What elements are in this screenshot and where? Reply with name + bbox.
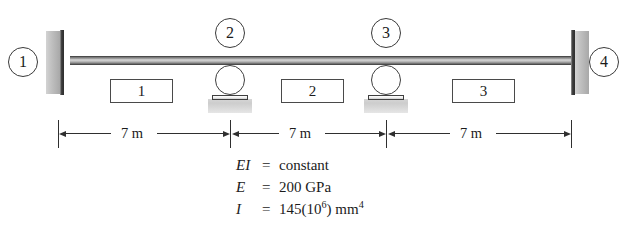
fixed-support-hatch-right xyxy=(575,31,589,94)
member-label-1: 1 xyxy=(138,84,146,99)
dimension-line-2a xyxy=(239,133,279,134)
dimension-label-2: 7 m xyxy=(275,126,325,141)
dimension-arrowhead-right-3 xyxy=(564,131,571,137)
material-properties-note: EI = constant E = 200 GPa I = 145(106) m… xyxy=(236,158,364,224)
roller-base-plate-2 xyxy=(212,95,248,100)
member-box-2: 2 xyxy=(281,79,344,103)
fixed-support-face-left xyxy=(60,30,64,95)
property-value-e: 200 GPa xyxy=(279,180,331,195)
dimension-label-3: 7 m xyxy=(446,126,496,141)
property-symbol-i: I xyxy=(236,202,262,217)
dimension-line-2b xyxy=(325,133,379,134)
node-marker-4: 4 xyxy=(589,47,619,77)
property-row-e: E = 200 GPa xyxy=(236,180,364,202)
property-row-ei: EI = constant xyxy=(236,158,364,180)
roller-ground-block-2 xyxy=(208,99,252,113)
member-box-3: 3 xyxy=(452,79,515,103)
roller-ground-block-3 xyxy=(364,99,408,113)
property-value-i: 145(106) mm4 xyxy=(279,202,364,217)
dimension-arrowhead-right-1 xyxy=(223,131,230,137)
dimension-tick-3 xyxy=(571,120,572,148)
node-marker-2: 2 xyxy=(215,18,245,48)
roller-base-plate-3 xyxy=(368,95,404,100)
dimension-line-3a xyxy=(395,133,450,134)
property-symbol-e: E xyxy=(236,180,262,195)
dimension-arrowhead-left-1 xyxy=(59,131,66,137)
dimension-line-1b xyxy=(157,133,223,134)
property-value-ei: constant xyxy=(279,158,329,173)
fixed-support-face-right xyxy=(571,30,575,95)
dimension-line-1a xyxy=(66,133,111,134)
beam-diagram-figure: 1 2 3 4 1 2 3 7 m 7 m 7 m EI = xyxy=(0,0,625,251)
dimension-arrowhead-left-3 xyxy=(388,131,395,137)
dimension-label-1: 7 m xyxy=(107,126,157,141)
node-label-2: 2 xyxy=(226,25,234,41)
roller-support-2 xyxy=(215,65,245,95)
property-equals-i: = xyxy=(262,202,279,217)
dimension-arrowhead-left-2 xyxy=(232,131,239,137)
node-label-4: 4 xyxy=(600,54,608,70)
property-symbol-ei: EI xyxy=(236,158,262,173)
member-label-3: 3 xyxy=(480,84,488,99)
member-label-2: 2 xyxy=(309,84,317,99)
node-marker-3: 3 xyxy=(371,18,401,48)
property-equals-e: = xyxy=(262,180,279,195)
beam-member xyxy=(70,56,575,65)
roller-support-3 xyxy=(371,65,401,95)
member-box-1: 1 xyxy=(110,79,173,103)
dimension-line-3b xyxy=(496,133,564,134)
dimension-arrowhead-right-2 xyxy=(379,131,386,137)
node-label-1: 1 xyxy=(19,54,27,70)
property-row-i: I = 145(106) mm4 xyxy=(236,202,364,224)
node-label-3: 3 xyxy=(382,25,390,41)
node-marker-1: 1 xyxy=(8,47,38,77)
fixed-support-hatch-left xyxy=(46,31,60,94)
property-equals-ei: = xyxy=(262,158,279,173)
